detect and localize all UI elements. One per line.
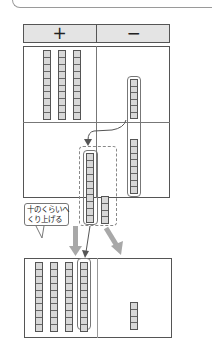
tens-rod: [50, 262, 58, 332]
curved-arrow-head-icon: [84, 139, 92, 146]
carried-tens-rod: [80, 262, 88, 332]
tens-rod: [35, 262, 43, 332]
thin-arrow-head-icon: [82, 250, 89, 258]
bottom-grid: [24, 258, 172, 338]
down-arrow-icon: [69, 246, 82, 256]
bottom-ones-rod: [130, 302, 138, 330]
tens-rod: [65, 262, 73, 332]
bottom-grid-vertical-divider: [97, 258, 98, 338]
